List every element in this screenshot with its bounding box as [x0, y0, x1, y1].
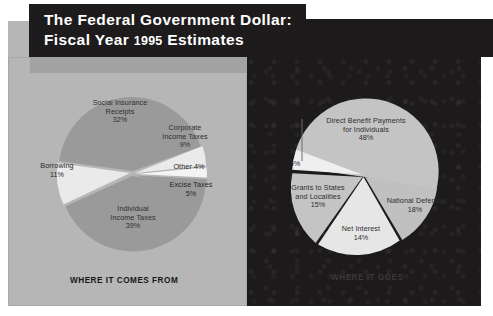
label-other: Other 4%	[154, 163, 224, 172]
label-borrowing: Borrowing 11%	[26, 162, 88, 179]
banner-drop-shadow	[30, 57, 247, 73]
page-title-line-2: Fiscal Year 1995 Estimates	[44, 30, 306, 51]
pie-chart-outlays	[247, 57, 481, 306]
label-other-outlays: 5%	[283, 160, 307, 169]
label-grants-to-states: Grants to States and Localities 15%	[275, 184, 361, 210]
top-dark-strip	[306, 19, 493, 57]
label-net-interest: Net Interest 14%	[323, 225, 399, 242]
label-social-insurance-receipts: Social Insurance Receipts 32%	[64, 99, 176, 125]
label-line: 15%	[275, 201, 361, 210]
left-accent-tab	[8, 21, 30, 57]
title-suffix: Estimates	[162, 31, 244, 48]
label-corporate-income-taxes: Corporate Income Taxes 9%	[148, 124, 222, 150]
label-national-defense: National Defense 18%	[369, 197, 461, 214]
label-direct-benefit-payments: Direct Benefit Payments for Individuals …	[299, 117, 433, 143]
label-line: 18%	[369, 206, 461, 215]
label-line: 39%	[80, 222, 186, 231]
caption-where-it-comes-from: WHERE IT COMES FROM	[70, 276, 178, 285]
label-line: 14%	[323, 234, 399, 243]
label-line: 5%	[283, 160, 307, 169]
label-line: Other 4%	[154, 163, 224, 172]
label-line: 9%	[148, 141, 222, 150]
title-prefix: Fiscal Year	[44, 31, 134, 48]
label-individual-income-taxes: Individual Income Taxes 39%	[80, 205, 186, 231]
label-line: 11%	[26, 171, 88, 180]
label-line: 5%	[154, 190, 228, 199]
panel-where-it-comes-from: Social Insurance Receipts 32% Corporate …	[8, 57, 247, 306]
title-banner: The Federal Government Dollar: Fiscal Ye…	[29, 4, 306, 57]
infographic-root: Social Insurance Receipts 32% Corporate …	[0, 0, 493, 316]
panel-where-it-goes: Direct Benefit Payments for Individuals …	[247, 57, 481, 306]
title-year: 1995	[134, 34, 163, 48]
label-excise-taxes: Excise Taxes 5%	[154, 181, 228, 198]
label-line: 48%	[299, 134, 433, 143]
caption-where-it-goes: WHERE IT GOES	[331, 273, 403, 282]
page-title-line-1: The Federal Government Dollar:	[44, 10, 306, 30]
